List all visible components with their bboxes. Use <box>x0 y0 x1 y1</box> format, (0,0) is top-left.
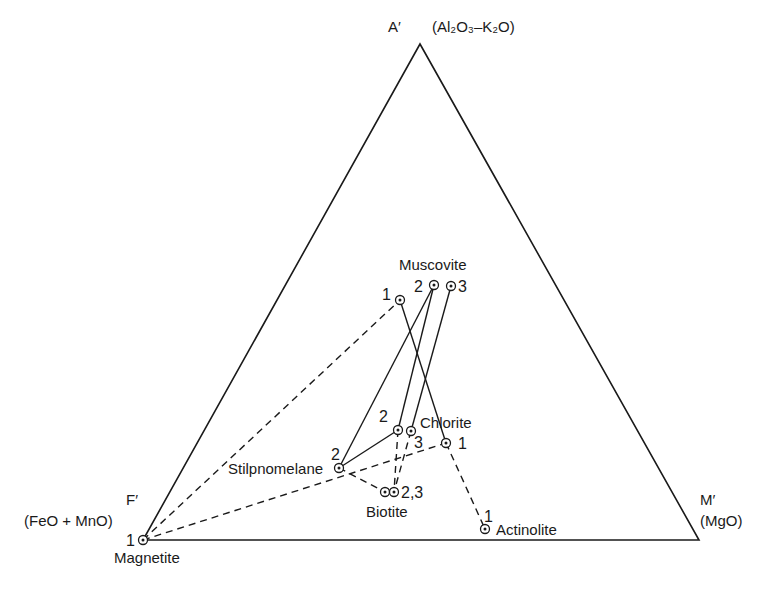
sample-label-musc2: 2 <box>414 278 423 295</box>
sample-label-act1: 1 <box>484 508 493 525</box>
point-stilpnomelane-2 <box>335 464 344 473</box>
point-biotite-2 <box>381 488 390 497</box>
vertex-f-formula: (FeO + MnO) <box>24 512 113 529</box>
tie-chl3-bio3 <box>394 431 411 492</box>
tie-stilp2-chl2 <box>339 430 398 468</box>
point-chlorite-2 <box>394 426 403 435</box>
vertex-a-label: A′ <box>388 18 401 35</box>
point-muscovite-2 <box>430 281 439 290</box>
afm-ternary-diagram: A′ (Al₂O₃–K₂O) F′ (FeO + MnO) M′ (MgO) M… <box>0 0 782 590</box>
point-biotite-3 <box>390 488 399 497</box>
sample-label-chl3: 3 <box>414 434 423 451</box>
vertex-a-formula: (Al₂O₃–K₂O) <box>432 18 515 35</box>
point-muscovite-1 <box>396 296 405 305</box>
vertex-m-formula: (MgO) <box>700 512 743 529</box>
tie-stilp2-bio2 <box>339 468 385 492</box>
tie-chl1-act1 <box>446 443 485 529</box>
label-actinolite: Actinolite <box>496 521 557 538</box>
sample-label-chl2: 2 <box>379 408 388 425</box>
sample-label-chl1: 1 <box>458 435 467 452</box>
label-chlorite: Chlorite <box>420 414 472 431</box>
tie-musc3-chl3 <box>411 286 451 431</box>
sample-label-musc1: 1 <box>382 286 391 303</box>
sample-label-biotite: 2,3 <box>401 484 423 501</box>
vertex-labels: A′ (Al₂O₃–K₂O) F′ (FeO + MnO) M′ (MgO) <box>24 18 743 529</box>
tie-mag1-musc1 <box>143 300 400 540</box>
point-chlorite-1 <box>442 439 451 448</box>
tie-musc2-chl2 <box>398 285 434 430</box>
point-muscovite-3 <box>447 282 456 291</box>
solid-tie-lines <box>339 285 451 468</box>
vertex-m-label: M′ <box>700 491 715 508</box>
label-stilpnomelane: Stilpnomelane <box>228 460 323 477</box>
sample-label-musc3: 3 <box>458 278 467 295</box>
sample-label-stilp2: 2 <box>331 446 340 463</box>
point-actinolite-1 <box>481 525 490 534</box>
point-magnetite-1 <box>139 536 148 545</box>
vertex-f-label: F′ <box>126 491 138 508</box>
label-biotite: Biotite <box>366 503 408 520</box>
label-muscovite: Muscovite <box>399 256 467 273</box>
label-magnetite: Magnetite <box>114 549 180 566</box>
sample-label-mag1: 1 <box>126 532 135 549</box>
